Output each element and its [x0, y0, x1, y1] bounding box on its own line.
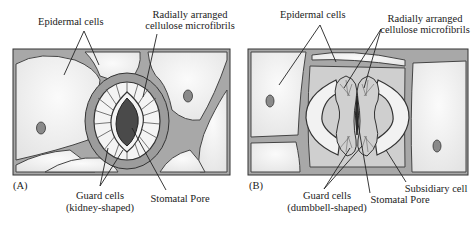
label-stomatal-pore-b: Stomatal Pore: [360, 194, 440, 205]
label-guard-cells-b-2: (dumbbell-shaped): [282, 202, 372, 213]
label-epidermal-cells-b: Epidermal cells: [280, 9, 346, 20]
nucleus: [266, 95, 274, 107]
panel-b: [248, 25, 468, 193]
label-guard-cells-a-2: (kidney-shaped): [55, 202, 145, 213]
label-guard-cells-b-1: Guard cells: [282, 190, 372, 201]
epidermal-cell: [411, 61, 466, 172]
panel-a: [13, 31, 230, 190]
label-stomatal-pore-a: Stomatal Pore: [140, 193, 220, 204]
label-subsidiary-cell: Subsidiary cell: [396, 183, 476, 194]
label-microfibrils-a-2: cellulose microfibrils: [130, 20, 250, 31]
label-microfibrils-b-1: Radially arranged: [370, 13, 476, 24]
label-epidermal-cells-a: Epidermal cells: [38, 16, 104, 27]
nucleus: [37, 122, 46, 134]
epidermal-cell: [251, 52, 306, 137]
label-microfibrils-b-2: cellulose microfibrils: [370, 24, 476, 35]
label-microfibrils-a-1: Radially arranged: [130, 9, 250, 20]
panel-tag-b: (B): [249, 180, 263, 191]
nucleus: [433, 140, 441, 152]
epidermal-cell: [251, 142, 300, 172]
nucleus: [184, 90, 193, 102]
panel-tag-a: (A): [13, 180, 28, 191]
label-guard-cells-a-1: Guard cells: [55, 190, 145, 201]
